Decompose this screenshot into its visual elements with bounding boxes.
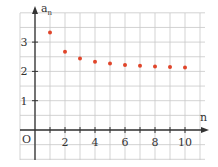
y-axis-label: an: [41, 2, 53, 17]
data-point: [168, 65, 172, 69]
data-point: [138, 64, 142, 68]
data-point: [63, 50, 67, 54]
y-tick-label: 1: [21, 95, 28, 108]
data-point: [153, 64, 157, 68]
data-point: [93, 60, 97, 64]
x-tick-label: 6: [122, 136, 129, 149]
x-tick-label: 10: [178, 136, 192, 149]
origin-label: O: [22, 133, 31, 146]
y-axis-arrow-icon: [32, 6, 38, 14]
x-tick-label: 8: [152, 136, 159, 149]
data-points: [48, 30, 187, 69]
data-point: [183, 66, 187, 70]
y-tick-label: 2: [21, 65, 28, 78]
sequence-chart: 246810123 n an O: [0, 0, 218, 167]
data-point: [123, 63, 127, 67]
tick-labels: 246810123: [21, 36, 193, 149]
data-point: [48, 30, 52, 34]
data-point: [78, 57, 82, 61]
x-axis-label: n: [200, 111, 207, 124]
data-point: [108, 61, 112, 65]
x-tick-label: 2: [62, 136, 69, 149]
x-axis-arrow-icon: [201, 127, 209, 133]
y-tick-label: 3: [21, 36, 28, 49]
x-tick-label: 4: [92, 136, 99, 149]
